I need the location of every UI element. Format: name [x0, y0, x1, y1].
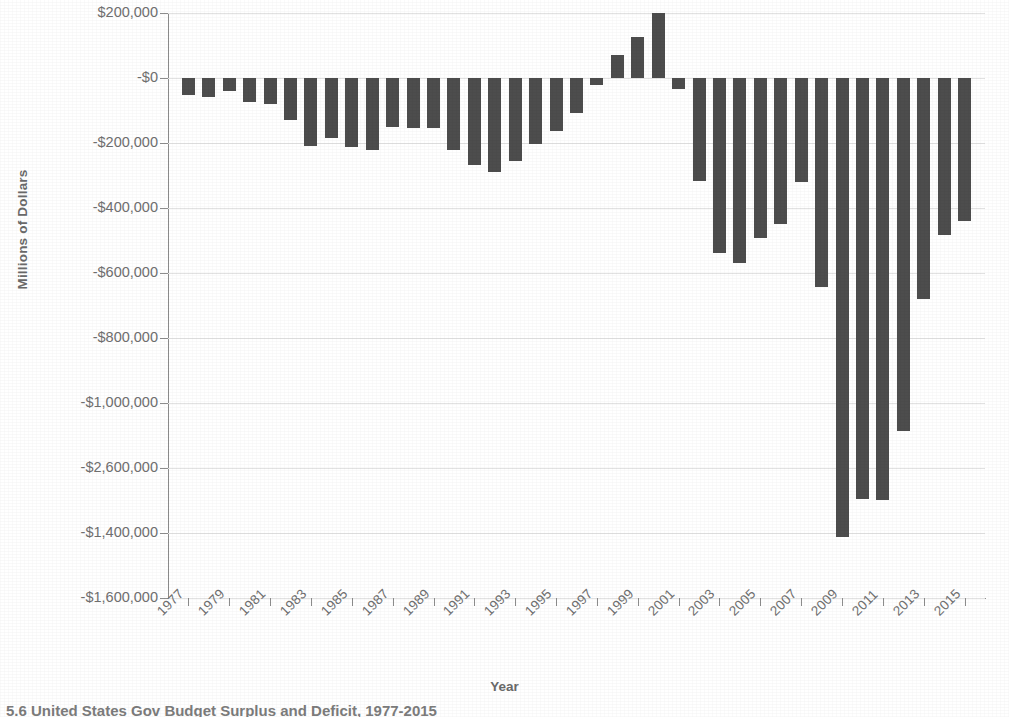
- bar: [652, 13, 665, 78]
- y-tick-mark: [160, 338, 168, 339]
- bar: [386, 78, 399, 127]
- bar: [447, 78, 460, 150]
- bar: [611, 55, 624, 78]
- chart-figure: Millions of Dollars $200,000-$0-$200,000…: [0, 0, 1009, 717]
- x-tick-mark: [188, 598, 189, 606]
- plot-area: [168, 13, 985, 598]
- bar: [407, 78, 420, 128]
- gridline: [168, 13, 985, 14]
- bar: [570, 78, 583, 113]
- bar: [938, 78, 951, 235]
- y-tick-mark: [160, 273, 168, 274]
- y-tick-label: -$0: [8, 69, 158, 85]
- x-tick-mark: [924, 598, 925, 606]
- figure-caption: 5.6 United States Gov Budget Surplus and…: [6, 702, 1006, 717]
- bar: [897, 78, 910, 431]
- bar: [836, 78, 849, 537]
- x-tick-mark: [719, 598, 720, 606]
- y-tick-mark: [160, 143, 168, 144]
- y-tick-label: -$600,000: [8, 264, 158, 280]
- bar: [550, 78, 563, 131]
- bar: [182, 78, 195, 95]
- x-tick-mark: [556, 598, 557, 606]
- x-tick-mark: [229, 598, 230, 606]
- y-tick-mark: [160, 533, 168, 534]
- bar: [693, 78, 706, 181]
- x-axis-title: Year: [0, 679, 1009, 694]
- bar: [427, 78, 440, 128]
- x-tick-mark: [393, 598, 394, 606]
- bar: [304, 78, 317, 146]
- bar: [713, 78, 726, 253]
- bar: [958, 78, 971, 221]
- bar: [631, 37, 644, 78]
- bar: [202, 78, 215, 97]
- bar: [243, 78, 256, 102]
- x-tick-mark: [474, 598, 475, 606]
- bar: [815, 78, 828, 287]
- bar: [672, 78, 685, 89]
- y-tick-mark: [160, 468, 168, 469]
- y-tick-label: -$1,400,000: [8, 524, 158, 540]
- bar: [284, 78, 297, 120]
- y-tick-mark: [160, 78, 168, 79]
- x-tick-mark: [883, 598, 884, 606]
- bar: [488, 78, 501, 172]
- y-axis-title: Millions of Dollars: [15, 130, 30, 330]
- x-tick-mark: [679, 598, 680, 606]
- y-tick-mark: [160, 13, 168, 14]
- bar: [223, 78, 236, 91]
- y-tick-label: -$400,000: [8, 199, 158, 215]
- bar: [590, 78, 603, 85]
- bar: [366, 78, 379, 150]
- x-tick-mark: [597, 598, 598, 606]
- x-tick-mark: [311, 598, 312, 606]
- x-tick-mark: [842, 598, 843, 606]
- bar: [754, 78, 767, 238]
- gridline: [168, 533, 985, 534]
- bar: [917, 78, 930, 299]
- x-tick-mark: [352, 598, 353, 606]
- bar: [509, 78, 522, 161]
- y-tick-label: -$800,000: [8, 329, 158, 345]
- x-tick-mark: [760, 598, 761, 606]
- bar: [264, 78, 277, 104]
- y-tick-label: -$1,600,000: [8, 589, 158, 605]
- x-tick-mark: [270, 598, 271, 606]
- bar: [325, 78, 338, 138]
- bar: [876, 78, 889, 500]
- bar: [529, 78, 542, 144]
- y-tick-label: -$1,000,000: [8, 394, 158, 410]
- bar: [795, 78, 808, 182]
- y-tick-mark: [160, 403, 168, 404]
- x-tick-mark: [434, 598, 435, 606]
- y-tick-label: -$2,600,000: [8, 459, 158, 475]
- x-tick-mark: [515, 598, 516, 606]
- x-tick-mark: [638, 598, 639, 606]
- y-tick-label: -$200,000: [8, 134, 158, 150]
- x-tick-mark: [801, 598, 802, 606]
- y-tick-mark: [160, 208, 168, 209]
- bar: [774, 78, 787, 224]
- x-tick-mark: [965, 598, 966, 606]
- bar: [345, 78, 358, 147]
- bar: [468, 78, 481, 165]
- bar: [733, 78, 746, 263]
- y-tick-label: $200,000: [8, 4, 158, 20]
- bar: [856, 78, 869, 499]
